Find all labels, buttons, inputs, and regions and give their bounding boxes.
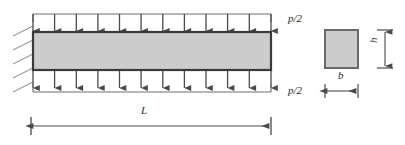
diagram-canvas	[0, 0, 405, 145]
beam-loading-diagram: p/2 p/2 L b h	[0, 0, 405, 145]
cross-section-shape	[325, 30, 358, 68]
bottom-load-label: p/2	[288, 85, 302, 96]
width-dimension	[325, 84, 358, 98]
beam-body	[33, 32, 271, 70]
fixed-support-hatching	[13, 26, 33, 92]
length-label: L	[141, 105, 147, 116]
top-load-label: p/2	[288, 13, 302, 24]
width-label: b	[338, 70, 344, 81]
height-dimension	[377, 30, 393, 68]
bottom-load-rail	[33, 84, 271, 92]
top-load-rail	[33, 14, 271, 22]
top-load-arrows	[33, 14, 271, 31]
height-label: h	[368, 38, 379, 44]
bottom-load-arrows	[33, 71, 271, 88]
length-dimension	[31, 117, 271, 135]
